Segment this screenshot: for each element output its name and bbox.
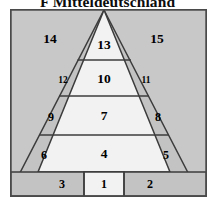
pyramid-diagram: 1 2 3 4 5 6 7 8 9 10 11 12 13 14 15 (10, 9, 207, 197)
pyramid-figure-panel: F Mitteldeutschland (0, 0, 215, 208)
base-cell-center (84, 172, 124, 196)
